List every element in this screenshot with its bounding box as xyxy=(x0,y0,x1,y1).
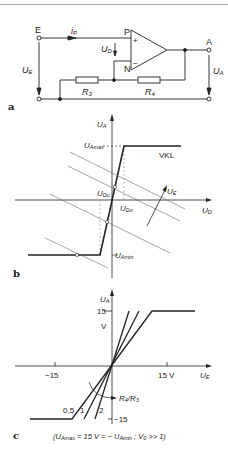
ua-arrow-icon xyxy=(207,88,211,95)
label-r4: R4 xyxy=(145,87,156,97)
panel-label-b: b xyxy=(13,268,20,279)
panel-label-a: a xyxy=(8,101,15,112)
chart-c xyxy=(15,289,212,424)
curve-label-1: 1 xyxy=(80,406,85,415)
chart-c-y-label: UA xyxy=(100,295,110,304)
ue-arrow-icon xyxy=(37,88,41,95)
panel-label-c: c xyxy=(13,430,19,441)
label-n: N xyxy=(124,64,131,74)
vkl-curve xyxy=(28,146,181,255)
x-tick-15v: 15 V xyxy=(158,371,175,380)
label-plus: + xyxy=(133,36,138,45)
label-udo: UDo xyxy=(120,204,133,213)
curve-label-2: 2 xyxy=(99,406,104,415)
chart-b xyxy=(15,114,212,278)
label-ue-shift: UE xyxy=(167,187,177,196)
label-ip: iP xyxy=(71,26,77,36)
y-tick-minus-15: −15 xyxy=(114,415,128,424)
ratio-label: R4/R3 xyxy=(119,394,140,403)
resistor-r3 xyxy=(76,77,98,83)
chart-b-y-label: UA xyxy=(97,120,107,129)
label-ud: UD xyxy=(101,44,113,54)
x-tick-minus-15: −15 xyxy=(45,371,59,380)
label-e: E xyxy=(35,25,41,35)
curve-label-0-5: 0,5 xyxy=(63,406,75,415)
label-vkl: VKL xyxy=(159,151,175,160)
label-p: P xyxy=(124,27,130,37)
chart-b-x-label: UD xyxy=(202,206,212,215)
label-udu: UDu xyxy=(97,189,110,198)
label-r3: R3 xyxy=(82,87,93,97)
label-minus: − xyxy=(133,59,138,68)
chart-c-x-label: UE xyxy=(200,371,210,380)
ratio-arrow-icon xyxy=(111,396,117,400)
diagram-canvas: E A iP P N + − UD UE UA R3 R4 a xyxy=(0,0,228,464)
terminal-e xyxy=(37,36,41,40)
ud-arrow-icon xyxy=(114,51,117,56)
resistor-r4 xyxy=(138,77,160,83)
label-ua: UA xyxy=(213,66,224,76)
chart-c-caption: (UAmax = 15 V = − UAmin ; V0 >> 1) xyxy=(53,432,166,441)
current-arrow-icon xyxy=(68,36,76,40)
label-a: A xyxy=(206,37,212,47)
y-tick-15: 15 xyxy=(97,307,106,316)
y-unit: V xyxy=(101,322,107,331)
terminal-a xyxy=(207,48,211,52)
label-ue: UE xyxy=(22,65,34,75)
label-uamin: UAmin xyxy=(115,251,133,260)
label-uamax: UAmax xyxy=(84,141,104,150)
